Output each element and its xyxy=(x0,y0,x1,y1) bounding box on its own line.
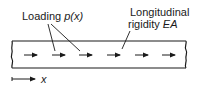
bar xyxy=(11,41,186,68)
leader-rigidity xyxy=(122,31,130,49)
loading-text: Loading xyxy=(22,10,61,22)
bar-left-break xyxy=(11,41,12,68)
leader-loading-2 xyxy=(51,24,80,51)
loading-function: p(x) xyxy=(64,10,83,22)
x-axis xyxy=(12,77,35,81)
loading-label: Loading p(x) xyxy=(22,10,83,22)
rigidity-word: rigidity xyxy=(128,18,160,30)
rigidity-line1-text: Longitudinal xyxy=(130,6,189,18)
leader-lines xyxy=(48,24,130,51)
rigidity-label-line1: Longitudinal xyxy=(130,6,189,18)
rigidity-symbol: EA xyxy=(163,18,178,30)
x-axis-label: x xyxy=(41,73,47,85)
rigidity-label-line2: rigidity EA xyxy=(128,18,178,30)
bar-right-break xyxy=(185,41,186,68)
leader-loading-1 xyxy=(48,24,55,51)
